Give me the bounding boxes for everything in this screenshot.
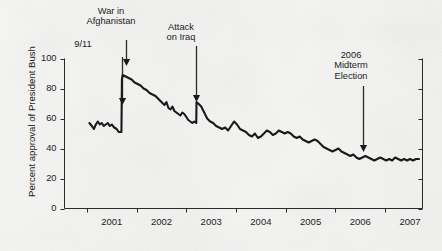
annotation-war-line1: War in xyxy=(73,6,149,16)
y-tick-label-100: 100 xyxy=(17,53,57,63)
x-tick-label-2006: 2006 xyxy=(336,216,384,227)
annotation-midterm-line2: Midterm xyxy=(318,60,384,70)
plot-area xyxy=(0,0,442,251)
approval-line xyxy=(89,75,419,161)
annotation-iraq-line1: Attack xyxy=(150,22,212,32)
annotation-war-line2: Afghanistan xyxy=(73,16,149,26)
x-axis-ticks xyxy=(88,209,386,213)
y-tick-label-20: 20 xyxy=(17,173,57,183)
x-tick-label-2004: 2004 xyxy=(237,216,285,227)
x-tick-label-2002: 2002 xyxy=(137,216,185,227)
annotation-midterm-line1: 2006 xyxy=(318,50,384,60)
chart-figure: Percent approval of President Bush 02040… xyxy=(0,0,442,251)
x-tick-label-2005: 2005 xyxy=(287,216,335,227)
annotation-911-line1: 9/11 xyxy=(64,39,102,49)
annotation-midterm-election: 2006 Midterm Election xyxy=(318,50,384,81)
x-tick-label-2001: 2001 xyxy=(88,216,136,227)
arrow-head-midterm-election xyxy=(360,145,367,152)
y-axis-ticks xyxy=(61,60,65,210)
annotation-nine-eleven: 9/11 xyxy=(64,39,102,49)
y-axis-ticks-right xyxy=(419,60,423,210)
y-tick-label-60: 60 xyxy=(17,113,57,123)
y-tick-label-40: 40 xyxy=(17,143,57,153)
annotation-attack-on-iraq: Attack on Iraq xyxy=(150,22,212,43)
y-tick-label-0: 0 xyxy=(17,203,57,213)
annotation-war-in-afghanistan: War in Afghanistan xyxy=(73,6,149,27)
arrow-head-war-in-afghanistan xyxy=(123,59,130,66)
arrow-head-attack-on-iraq xyxy=(193,95,200,102)
x-tick-label-2007: 2007 xyxy=(386,216,434,227)
x-tick-label-2003: 2003 xyxy=(187,216,235,227)
y-tick-label-80: 80 xyxy=(17,83,57,93)
annotation-iraq-line2: on Iraq xyxy=(150,32,212,42)
annotation-midterm-line3: Election xyxy=(318,71,384,81)
axes xyxy=(61,59,423,213)
